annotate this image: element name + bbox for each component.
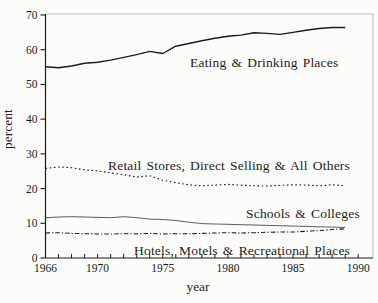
- y-tick-label: 40: [26, 113, 38, 125]
- series-line-3: [46, 229, 346, 234]
- y-tick-label: 10: [26, 217, 38, 229]
- x-tick-label: 1966: [34, 262, 57, 274]
- x-tick-label: 1980: [216, 262, 239, 274]
- y-tick-label: 20: [26, 183, 38, 195]
- y-tick-label: 30: [26, 148, 38, 160]
- y-tick-label: 70: [26, 9, 38, 21]
- y-axis-title: percent: [0, 100, 16, 158]
- series-label-eating-drinking-places: Eating & Drinking Places: [190, 55, 338, 71]
- series-label-schools-colleges: Schools & Colleges: [246, 206, 360, 222]
- x-tick-label: 1990: [347, 262, 370, 274]
- x-axis-title: year: [168, 279, 228, 295]
- series-label-retail-stores: Retail Stores, Direct Selling & All Othe…: [108, 158, 350, 174]
- line-chart-figure: 010203040506070196619701975198019851990 …: [0, 0, 378, 303]
- series-label-hotels-motels: Hotels, Motels & Recreational Places: [134, 243, 350, 259]
- x-tick-label: 1970: [86, 262, 109, 274]
- x-tick-label: 1985: [282, 262, 305, 274]
- y-tick-label: 50: [26, 78, 38, 90]
- x-tick-label: 1975: [151, 262, 174, 274]
- y-tick-label: 60: [26, 44, 38, 56]
